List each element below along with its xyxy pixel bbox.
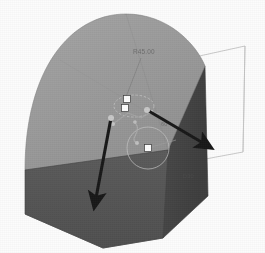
handle-circle-center[interactable] bbox=[145, 145, 152, 152]
arrow-left-origin-node[interactable] bbox=[108, 115, 114, 121]
model-canvas[interactable]: R45.00 60 D30 bbox=[0, 0, 265, 253]
dimension-lower-right-label[interactable]: D30 bbox=[183, 173, 194, 179]
handle-mid[interactable] bbox=[122, 105, 129, 112]
arrow-right-origin-node[interactable] bbox=[144, 107, 150, 113]
handle-upper[interactable] bbox=[124, 96, 131, 103]
dimension-top-label[interactable]: R45.00 bbox=[133, 48, 155, 55]
sketch-node-dot[interactable] bbox=[135, 141, 139, 145]
preview-edge-right bbox=[243, 46, 245, 152]
cad-viewport[interactable]: R45.00 60 D30 bbox=[0, 0, 265, 253]
sketch-node-dot[interactable] bbox=[133, 120, 137, 124]
